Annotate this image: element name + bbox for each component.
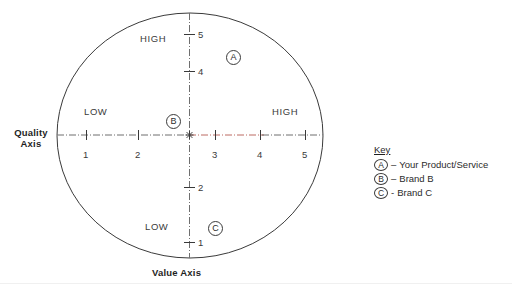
origin-marker <box>186 131 194 139</box>
x-tick-label-4: 4 <box>257 150 262 160</box>
scan-artifact-line <box>0 283 512 284</box>
y-tick-label-4: 4 <box>198 67 203 77</box>
x-tick-label-1: 1 <box>83 150 88 160</box>
legend-token-a: A <box>374 159 388 171</box>
quadrant-label-left-low: LOW <box>84 107 107 117</box>
quality-axis-title-line1: Quality <box>8 127 54 138</box>
value-axis-title: Value Axis <box>152 268 201 278</box>
y-tick-label-1: 1 <box>198 238 203 248</box>
y-tick-label-5: 5 <box>198 30 203 40</box>
quadrant-label-bottom-low: LOW <box>145 222 168 232</box>
legend-item-c: C - Brand C <box>374 186 488 199</box>
legend-label-a: Your Product/Service <box>399 159 488 170</box>
x-tick-label-3: 3 <box>212 150 217 160</box>
quadrant-label-right-high: HIGH <box>272 107 298 117</box>
legend-item-a: A – Your Product/Service <box>374 158 488 171</box>
data-point-c[interactable]: C <box>208 221 223 236</box>
legend-title: Key <box>374 144 488 155</box>
legend-token-b: B <box>374 173 388 185</box>
x-tick-label-5: 5 <box>302 150 307 160</box>
legend-label-b: Brand B <box>399 173 433 184</box>
data-point-a[interactable]: A <box>226 50 241 65</box>
x-tick-label-2: 2 <box>135 150 140 160</box>
perceptual-map-figure: Quality Axis Value Axis HIGH LOW HIGH LO… <box>0 0 512 291</box>
data-point-b[interactable]: B <box>166 114 181 129</box>
quadrant-label-top-high: HIGH <box>140 34 166 44</box>
legend-dash-a: – <box>391 159 396 170</box>
legend-dash-c: - <box>391 187 394 198</box>
legend-item-b: B – Brand B <box>374 172 488 185</box>
y-tick-label-2: 2 <box>198 183 203 193</box>
legend: Key A – Your Product/Service B – Brand B… <box>374 144 488 200</box>
legend-label-c: Brand C <box>397 187 432 198</box>
legend-token-c: C <box>374 187 388 199</box>
quality-axis-title-line2: Axis <box>8 138 54 149</box>
legend-dash-b: – <box>391 173 396 184</box>
quality-axis-title: Quality Axis <box>8 127 54 149</box>
